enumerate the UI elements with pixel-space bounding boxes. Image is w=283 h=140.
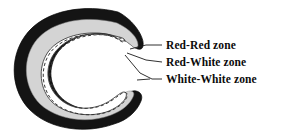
label-red-white-zone: Red-White zone: [166, 56, 246, 69]
leader-line-red-white: [127, 53, 162, 62]
white-white-zone-band: [41, 33, 126, 115]
label-white-white-zone: White-White zone: [166, 73, 257, 86]
leader-lines-group: [125, 45, 162, 80]
figure-canvas: Red-Red zone Red-White zone White-White …: [0, 0, 283, 140]
meniscus-cross-section-diagram: [0, 0, 283, 140]
leader-line-white-white-tip: [137, 79, 150, 80]
label-red-red-zone: Red-Red zone: [166, 39, 236, 52]
